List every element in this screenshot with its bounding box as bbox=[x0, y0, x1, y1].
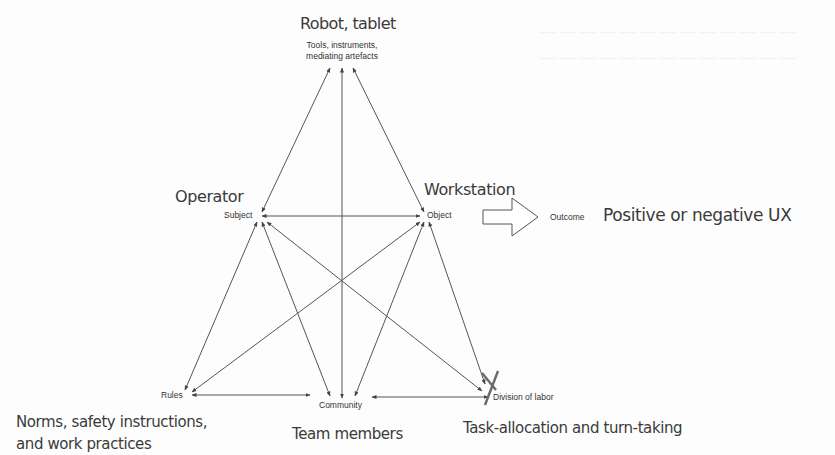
edge-subject-rules bbox=[185, 222, 257, 390]
community-node: Community bbox=[319, 400, 362, 410]
edge-object-tool bbox=[353, 68, 424, 212]
outcome-arrow-icon bbox=[483, 198, 538, 236]
edge-object-division bbox=[429, 222, 485, 384]
tool-caption: Robot, tablet bbox=[300, 14, 396, 33]
tool-node-line2: mediating artefacts bbox=[296, 51, 388, 62]
edge-object-community bbox=[355, 222, 424, 396]
rules-caption-line2: and work practices bbox=[16, 433, 207, 455]
rules-node: Rules bbox=[161, 390, 183, 400]
object-node: Object bbox=[427, 210, 452, 220]
rules-caption: Norms, safety instructions, and work pra… bbox=[16, 411, 207, 455]
edge-subject-tool bbox=[262, 68, 330, 212]
edge-object-rules bbox=[192, 222, 420, 392]
division-caption: Task-allocation and turn-taking bbox=[463, 419, 682, 437]
edge-subject-division bbox=[267, 222, 482, 391]
community-caption: Team members bbox=[292, 425, 403, 443]
division-node: Division of labor bbox=[493, 392, 553, 402]
outcome-caption: Positive or negative UX bbox=[603, 205, 791, 225]
edge-subject-community bbox=[262, 222, 330, 396]
tool-node: Tools, instruments, mediating artefacts bbox=[296, 40, 388, 62]
tool-node-line1: Tools, instruments, bbox=[296, 40, 388, 51]
rules-caption-line1: Norms, safety instructions, bbox=[16, 411, 207, 433]
subject-caption: Operator bbox=[175, 187, 243, 206]
object-caption: Workstation bbox=[424, 180, 515, 199]
outcome-node: Outcome bbox=[550, 212, 585, 222]
subject-node: Subject bbox=[224, 210, 252, 220]
